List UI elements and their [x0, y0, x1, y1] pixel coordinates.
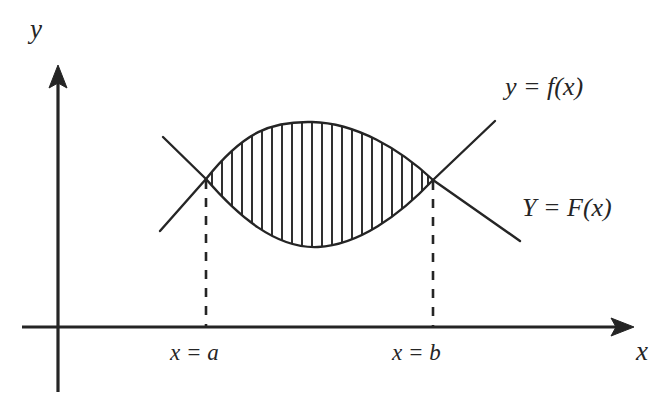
f-curve-left-tail — [160, 179, 206, 231]
y-axis-label: y — [30, 16, 42, 43]
tick-label-b: x = b — [392, 341, 441, 364]
y-axis — [49, 65, 67, 392]
f-curve — [160, 121, 495, 231]
x-axis — [22, 318, 634, 336]
region-hatching — [212, 100, 428, 270]
figure-canvas: y x y = f(x) Y = F(x) x = a x = b — [0, 0, 666, 407]
f-curve-right-tail — [433, 121, 495, 180]
F-curve-label: Y = F(x) — [522, 195, 612, 221]
tick-label-a: x = a — [170, 341, 219, 364]
upper-boundary-curve — [206, 122, 433, 180]
f-curve-label: y = f(x) — [505, 74, 583, 100]
F-curve-left-tail — [163, 137, 206, 179]
F-curve-right-tail — [433, 180, 520, 241]
lower-boundary-curve — [206, 179, 433, 247]
x-axis-label: x — [636, 338, 648, 365]
